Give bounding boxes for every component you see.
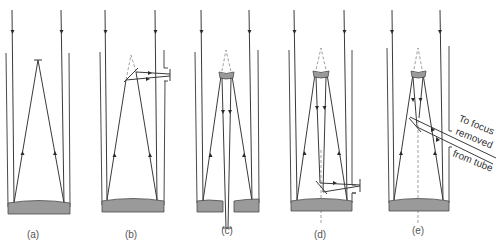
telescope-diagram: (a) (b) xyxy=(0,0,500,246)
panel-label-a: (a) xyxy=(27,229,39,240)
panel-d-nasmyth: (d) xyxy=(289,10,360,240)
panel-label-e: (e) xyxy=(412,225,424,236)
tube-wall-left xyxy=(195,52,197,203)
tube-wall-left xyxy=(387,48,389,203)
primary-mirror xyxy=(102,199,164,213)
panel-b-newtonian: (b) xyxy=(100,10,170,240)
tube-wall-left xyxy=(100,52,102,205)
panel-c-cassegrain: (c) xyxy=(195,10,259,236)
panel-e-coude: To focus removed from tube (e) xyxy=(387,10,496,236)
panel-label-c: (c) xyxy=(221,225,233,236)
panel-a-prime-focus: (a) xyxy=(6,10,70,240)
primary-mirror xyxy=(389,199,449,212)
primary-mirror xyxy=(291,199,352,212)
secondary-mirror xyxy=(313,71,329,78)
primary-mirror xyxy=(8,201,70,215)
tube-wall-right-lower xyxy=(164,81,165,205)
tertiary-flat-mirror xyxy=(409,118,421,132)
tube-wall-right xyxy=(258,50,259,203)
tube-wall-left xyxy=(289,50,291,203)
panel-label-b: (b) xyxy=(125,229,137,240)
primary-mirror-left xyxy=(197,200,223,212)
secondary-mirror xyxy=(219,72,234,79)
tube-wall-left xyxy=(6,53,8,207)
primary-mirror-right xyxy=(234,199,259,212)
tube-wall-right xyxy=(69,53,70,207)
panel-label-d: (d) xyxy=(314,229,326,240)
annotation-line3: from tube xyxy=(451,148,495,174)
secondary-mirror xyxy=(411,71,426,78)
